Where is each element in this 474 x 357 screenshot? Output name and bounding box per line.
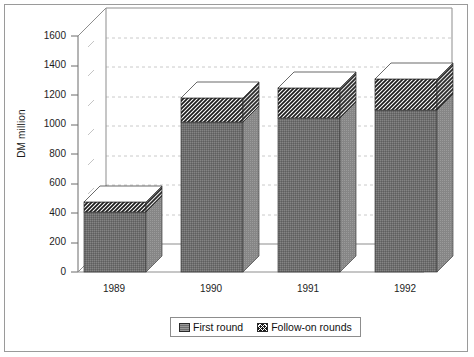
bar-1991-first-round[interactable] <box>278 118 340 272</box>
figure: DM million 1600 1400 1200 1000 800 600 4… <box>0 0 474 357</box>
bar-group-1991[interactable] <box>278 72 356 272</box>
legend-item-follow-on-rounds[interactable]: Follow-on rounds <box>257 321 352 333</box>
first-round-swatch-icon <box>179 323 190 332</box>
bar-1990-follow-on[interactable] <box>181 98 243 122</box>
bar-1989-follow-on[interactable] <box>84 202 146 212</box>
bar-group-1990[interactable] <box>181 82 259 272</box>
legend-item-first-round[interactable]: First round <box>179 321 243 333</box>
y-axis <box>71 36 78 272</box>
bar-1991-follow-on[interactable] <box>278 88 340 118</box>
bar-1992-first-round-side <box>437 94 453 272</box>
bar-group-1992[interactable] <box>375 63 453 272</box>
bar-1989-first-round[interactable] <box>84 212 146 272</box>
follow-on-rounds-swatch-icon <box>257 323 268 332</box>
legend-label-first-round: First round <box>193 321 243 333</box>
bar-group-1989[interactable] <box>84 186 162 272</box>
bar-1992-follow-on[interactable] <box>375 79 437 110</box>
bar-1990-first-round-side <box>243 106 259 272</box>
bar-1991-first-round-side <box>340 102 356 272</box>
bar-1992-first-round[interactable] <box>375 110 437 272</box>
legend-label-follow-on-rounds: Follow-on rounds <box>271 321 352 333</box>
bar-chart-plot <box>0 0 474 357</box>
chart-legend: First round Follow-on rounds <box>170 317 361 337</box>
bar-1990-first-round[interactable] <box>181 122 243 272</box>
